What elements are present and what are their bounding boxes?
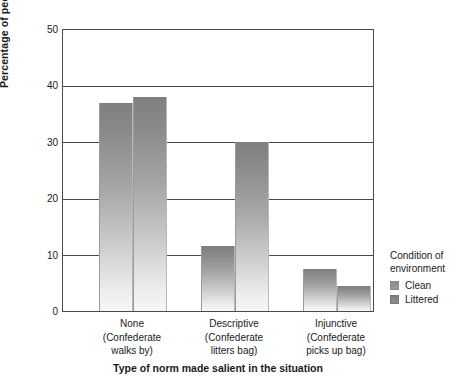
y-tick-30: 30 — [32, 137, 58, 148]
x-category-injunctive: Injunctive (Confederate picks up bag) — [276, 317, 396, 358]
y-tick-50: 50 — [32, 24, 58, 35]
legend-title-line2: environment — [390, 263, 445, 274]
legend-swatch-clean-icon — [390, 281, 399, 290]
x-category-injunctive-name: Injunctive — [276, 317, 396, 331]
legend-swatch-littered-icon — [390, 295, 399, 304]
bar-none-littered[interactable] — [133, 97, 167, 311]
bar-group-none — [99, 30, 167, 311]
plot-area — [62, 29, 374, 312]
y-tick-20: 20 — [32, 193, 58, 204]
legend-item-clean[interactable]: Clean — [390, 280, 474, 291]
bar-descriptive-littered[interactable] — [235, 142, 269, 311]
legend-title: Condition of environment — [390, 250, 474, 275]
bars-layer — [63, 30, 373, 311]
y-axis-title: Percentage of people littering — [0, 0, 10, 88]
x-category-injunctive-sub1: (Confederate — [276, 331, 396, 345]
legend-label-clean: Clean — [405, 280, 431, 291]
y-tick-40: 40 — [32, 80, 58, 91]
chart-root: 50 40 30 20 10 0 Percentage of people li… — [0, 0, 474, 392]
bar-group-descriptive — [201, 30, 269, 311]
legend: Condition of environment Clean Littered — [390, 250, 474, 305]
legend-item-littered[interactable]: Littered — [390, 294, 474, 305]
bar-group-injunctive — [303, 30, 371, 311]
y-tick-10: 10 — [32, 250, 58, 261]
bar-descriptive-clean[interactable] — [201, 246, 235, 311]
bar-injunctive-littered[interactable] — [337, 286, 371, 311]
x-category-injunctive-sub2: picks up bag) — [276, 344, 396, 358]
y-tick-0: 0 — [32, 306, 58, 317]
legend-label-littered: Littered — [405, 294, 438, 305]
x-axis-title: Type of norm made salient in the situati… — [62, 362, 374, 374]
bar-injunctive-clean[interactable] — [303, 269, 337, 311]
bar-none-clean[interactable] — [99, 103, 133, 311]
legend-title-line1: Condition of — [390, 250, 443, 261]
